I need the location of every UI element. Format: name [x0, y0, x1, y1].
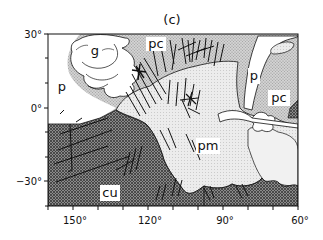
- label-p-west: p: [58, 79, 66, 94]
- x-tick-60: 60°: [291, 215, 309, 226]
- map-area: [48, 34, 298, 206]
- label-g: g: [91, 43, 99, 58]
- label-cu: cu: [102, 185, 117, 200]
- x-tick-150: 150°: [63, 215, 87, 226]
- label-pm: pm: [198, 138, 219, 153]
- map-figure: (c): [0, 0, 323, 240]
- label-pc-north: pc: [148, 36, 163, 51]
- label-p-east: p: [250, 68, 258, 83]
- label-pc-east: pc: [271, 90, 286, 105]
- y-tick-minus30: −30°: [16, 176, 42, 187]
- x-tick-120: 120°: [138, 215, 162, 226]
- x-tick-90: 90°: [216, 215, 234, 226]
- y-axis-ticks: [44, 34, 48, 206]
- y-tick-0: 0°: [31, 103, 42, 114]
- y-tick-30: 30°: [24, 29, 42, 40]
- figure-title: (c): [163, 12, 180, 27]
- x-axis-ticks: [48, 206, 298, 210]
